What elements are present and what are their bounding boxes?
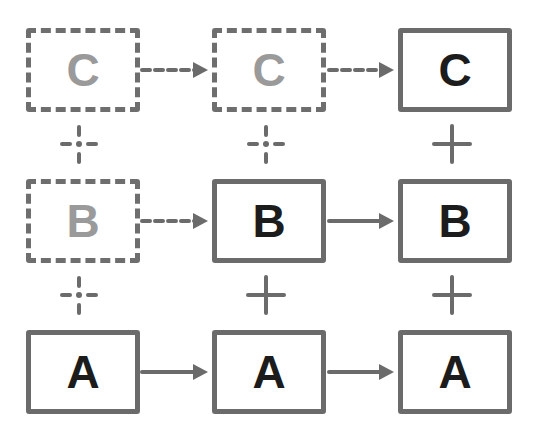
box-label: A xyxy=(66,349,99,395)
box-c-col2: C xyxy=(398,28,512,112)
arrow-b-col0-to-col1 xyxy=(142,213,208,229)
plus-dashed-icon-cb-col0 xyxy=(62,127,96,162)
box-label: B xyxy=(438,198,471,244)
plus-icon-cb-col2 xyxy=(434,126,470,162)
box-b-col1: B xyxy=(212,179,326,263)
plus-icon-ba-col2 xyxy=(434,277,470,313)
plus-dashed-icon-cb-col1 xyxy=(249,127,283,162)
box-label: B xyxy=(66,198,99,244)
box-c-col1: C xyxy=(212,28,326,112)
arrow-c-col0-to-col1 xyxy=(142,62,208,78)
arrow-c-col1-to-col2 xyxy=(329,62,394,78)
box-a-col0: A xyxy=(26,330,140,414)
arrow-a-col0-to-col1 xyxy=(142,364,208,380)
box-label: C xyxy=(66,47,99,93)
box-label: C xyxy=(438,47,471,93)
plus-dashed-icon-ba-col0 xyxy=(62,278,96,313)
arrow-a-col1-to-col2 xyxy=(329,364,394,380)
box-c-col0: C xyxy=(26,28,140,112)
box-a-col2: A xyxy=(398,330,512,414)
box-b-col0: B xyxy=(26,179,140,263)
arrow-b-col1-to-col2 xyxy=(329,213,394,229)
box-b-col2: B xyxy=(398,179,512,263)
box-a-col1: A xyxy=(212,330,326,414)
box-label: B xyxy=(252,198,285,244)
box-label: C xyxy=(252,47,285,93)
plus-icon-ba-col1 xyxy=(248,277,284,313)
box-label: A xyxy=(438,349,471,395)
box-label: A xyxy=(252,349,285,395)
